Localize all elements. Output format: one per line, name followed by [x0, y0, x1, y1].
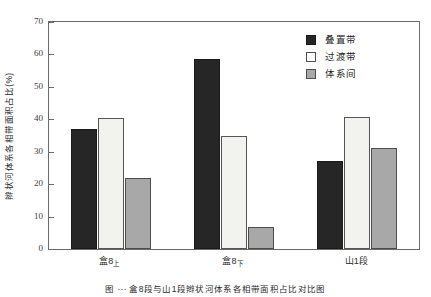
white-square-swatch	[306, 52, 316, 62]
bar-体系间-山1段[interactable]	[371, 148, 397, 249]
y-tick-10	[49, 217, 54, 218]
legend-label-过渡带: 过渡带	[325, 52, 357, 62]
y-tick-40	[49, 119, 54, 120]
bar-叠置带-山1段[interactable]	[317, 161, 343, 249]
y-tick-50	[49, 87, 54, 88]
bar-体系间-盒8下[interactable]	[248, 227, 274, 249]
y-axis-title-container: 辫状河体系各相带面积占比(%)	[8, 21, 22, 250]
legend-label-体系间: 体系间	[325, 69, 357, 79]
y-tick-label-70: 70	[23, 17, 43, 26]
y-tick-label-30: 30	[23, 147, 43, 156]
y-tick-60	[49, 54, 54, 55]
bar-过渡带-山1段[interactable]	[344, 117, 370, 249]
y-tick-label-20: 20	[23, 179, 43, 188]
y-tick-label-50: 50	[23, 82, 43, 91]
y-tick-label-40: 40	[23, 114, 43, 123]
figure-container: 辫状河体系各相带面积占比(%) 010203040506070 盒8上盒8下山1…	[0, 0, 431, 297]
bar-过渡带-盒8下[interactable]	[221, 136, 247, 250]
bar-group-2	[194, 22, 274, 249]
black-square-swatch	[306, 35, 316, 45]
bar-体系间-盒8上[interactable]	[125, 178, 151, 249]
legend-item-过渡带[interactable]: 过渡带	[306, 48, 404, 65]
figure-caption: 图 ··· 盒8段与山1段辫状河体系各相带面积占比对比图	[0, 284, 431, 295]
y-tick-label-60: 60	[23, 49, 43, 58]
y-tick-30	[49, 152, 54, 153]
y-tick-70	[49, 22, 54, 23]
x-axis-label-2: 盒8下	[193, 256, 273, 267]
legend-item-体系间[interactable]: 体系间	[306, 65, 404, 82]
y-tick-label-0: 0	[23, 244, 43, 253]
y-tick-label-10: 10	[23, 212, 43, 221]
y-tick-0	[49, 249, 54, 250]
gray-square-swatch	[306, 69, 316, 79]
legend: 叠置带过渡带体系间	[298, 26, 410, 87]
legend-label-叠置带: 叠置带	[325, 35, 357, 45]
x-axis-label-1: 盒8上	[70, 256, 150, 267]
bar-过渡带-盒8上[interactable]	[98, 118, 124, 249]
bar-叠置带-盒8下[interactable]	[194, 59, 220, 249]
bar-叠置带-盒8上[interactable]	[71, 129, 97, 249]
y-axis-title: 辫状河体系各相带面积占比(%)	[4, 0, 14, 297]
x-axis-label-3: 山1段	[316, 256, 396, 267]
y-tick-20	[49, 184, 54, 185]
bar-group-1	[71, 22, 151, 249]
legend-item-叠置带[interactable]: 叠置带	[306, 31, 404, 48]
